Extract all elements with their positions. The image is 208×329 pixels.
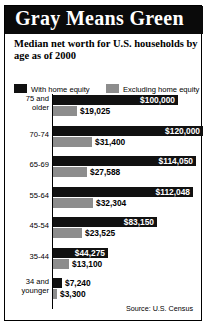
bar-excluding-home-equity [53,259,69,269]
bar-group: 70-74$120,000$31,400 [14,125,200,156]
chart-subtitle: Median net worth for U.S. households by … [14,38,200,62]
bar-excluding-home-equity [53,106,77,116]
bar-excluding-home-equity [53,289,57,299]
bar-group: 35-44$44,275$13,100 [14,247,200,278]
bar-group: 65-69$114,050$27,588 [14,155,200,186]
bar-value-label: $120,000 [165,126,200,136]
bar-value-label: $112,048 [156,187,190,197]
bar-group: 55-64$112,048$32,304 [14,186,200,217]
bar-group: 34 andyounger$7,240$3,300 [14,277,200,308]
source-note: Source: U.S. Census [126,304,193,313]
bar-excluding-home-equity [53,198,93,208]
category-label: 35-44 [9,253,49,262]
bar-value-label: $19,025 [80,106,110,116]
category-label: 65-69 [9,161,49,170]
category-label: 70-74 [9,131,49,140]
bar-value-label: $114,050 [159,156,193,166]
bar-value-label: $13,100 [72,259,102,269]
bar-value-label: $100,000 [140,95,175,105]
bar-group: 45-54$83,150$23,525 [14,216,200,247]
category-label-line: younger [9,287,49,296]
chart-legend: With home equity Excluding home equity [14,78,202,90]
bar-excluding-home-equity [53,167,87,177]
bar-value-label: $23,525 [85,228,115,238]
title-banner: Gray Means Green [5,6,203,34]
legend-swatch-gray [106,84,119,93]
bar-excluding-home-equity [53,137,92,147]
category-label-line: 45-54 [9,222,49,231]
category-label-line: 70-74 [9,131,49,140]
chart-card: Gray Means Green Median net worth for U.… [4,5,202,321]
legend-label-0: With home equity [27,85,90,94]
bar-value-label: $31,400 [95,137,125,147]
category-label: 34 andyounger [9,278,49,295]
bar-value-label: $44,275 [75,248,105,258]
category-label: 75 andolder [9,95,49,112]
bar-value-label: $3,300 [60,289,86,299]
category-label-line: 35-44 [9,253,49,262]
legend-item-with-home-equity: With home equity [14,78,90,90]
legend-label-1: Excluding home equity [119,85,199,94]
legend-swatch-dark [14,84,27,93]
bar-value-label: $83,150 [124,217,154,227]
chart-title: Gray Means Green [15,7,184,30]
bar-value-label: $32,304 [96,198,126,208]
bar-value-label: $27,588 [90,167,120,177]
bar-chart-plot: 75 andolder$100,000$19,02570-74$120,000$… [14,94,200,309]
category-label: 45-54 [9,222,49,231]
category-label-line: 55-64 [9,192,49,201]
legend-item-excluding-home-equity: Excluding home equity [106,78,199,90]
bar-excluding-home-equity [53,228,82,238]
category-label-line: 65-69 [9,161,49,170]
bar-with-home-equity [53,278,62,288]
bar-group: 75 andolder$100,000$19,025 [14,94,200,125]
bar-value-label: $7,240 [65,278,91,288]
category-label-line: older [9,104,49,113]
category-label: 55-64 [9,192,49,201]
